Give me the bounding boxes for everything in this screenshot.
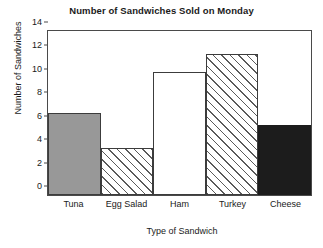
y-axis-tick-label: 6 — [37, 111, 44, 120]
x-axis-tick-label: Turkey — [206, 199, 259, 209]
y-axis-tick-mark — [44, 22, 48, 23]
y-axis-tick: 0 — [37, 182, 48, 191]
plot-area: 02468101214 — [47, 30, 312, 196]
bar-ham[interactable] — [153, 72, 206, 195]
y-axis-tick: 14 — [32, 18, 48, 27]
x-axis-tick-labels: TunaEgg SaladHamTurkeyCheese — [47, 199, 312, 209]
x-axis-tick-label: Cheese — [259, 199, 312, 209]
bar-cheese[interactable] — [258, 125, 311, 195]
bar-slot — [48, 31, 101, 195]
x-axis-tick-label: Tuna — [47, 199, 100, 209]
bar-slot — [206, 31, 259, 195]
bar-tuna[interactable] — [48, 113, 101, 195]
y-axis-tick-label: 10 — [32, 64, 44, 73]
y-axis-tick: 6 — [37, 111, 48, 120]
y-axis-tick-label: 12 — [32, 41, 44, 50]
y-axis-tick: 8 — [37, 88, 48, 97]
x-axis-tick-label: Egg Salad — [100, 199, 153, 209]
y-axis-tick-label: 4 — [37, 135, 44, 144]
bar-egg-salad[interactable] — [101, 148, 154, 195]
chart-title: Number of Sandwiches Sold on Monday — [0, 5, 323, 16]
bar-slot — [258, 31, 311, 195]
y-axis-title: Number of Sandwiches — [13, 2, 23, 134]
x-axis-title: Type of Sandwich — [47, 226, 317, 236]
y-axis-tick-label: 8 — [37, 88, 44, 97]
bars-group — [48, 31, 311, 195]
bar-chart: Number of Sandwiches Sold on Monday Numb… — [0, 0, 323, 248]
y-axis-tick: 2 — [37, 158, 48, 167]
y-axis-tick: 10 — [32, 64, 48, 73]
bar-slot — [153, 31, 206, 195]
y-axis-tick: 12 — [32, 41, 48, 50]
x-axis-tick-label: Ham — [153, 199, 206, 209]
y-axis-tick-label: 14 — [32, 18, 44, 27]
bar-turkey[interactable] — [206, 54, 259, 195]
bar-slot — [101, 31, 154, 195]
y-axis-tick-label: 2 — [37, 158, 44, 167]
y-axis-tick: 4 — [37, 135, 48, 144]
y-axis-tick-label: 0 — [37, 182, 44, 191]
